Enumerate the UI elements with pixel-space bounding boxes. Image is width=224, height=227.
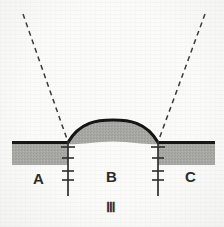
strata-bed-left-fill [12, 142, 68, 165]
geologic-cross-section-figure: A B C Ⅲ [0, 0, 224, 227]
strata-bed-right-fill [158, 142, 215, 165]
region-label-b: B [106, 168, 117, 185]
figure-caption: Ⅲ [106, 200, 116, 215]
region-label-a: A [33, 170, 44, 187]
figure-background [0, 0, 224, 227]
cross-section-drawing: A B C Ⅲ [0, 0, 224, 227]
region-label-c: C [185, 168, 196, 185]
strata-bed-right [157, 142, 215, 165]
strata-bed-left [12, 142, 69, 165]
